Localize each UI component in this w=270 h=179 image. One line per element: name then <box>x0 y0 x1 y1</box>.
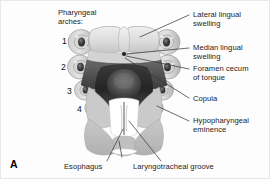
label-lateral-lingual-swelling: Lateral lingual swelling <box>193 10 241 28</box>
pharyngeal-arches-heading: Pharyngeal arches: <box>58 8 96 27</box>
leader-hypopharyngeal-eminence <box>157 106 189 121</box>
figure-panel: Pharyngeal arches: 1 2 3 4 Lateral lingu… <box>0 0 270 179</box>
label-laryngotracheal-groove: Laryngotracheal groove <box>133 162 214 171</box>
label-foramen-cecum-of-tongue: Foramen cecum of tongue <box>193 64 249 82</box>
panel-letter-a: A <box>10 158 18 170</box>
foramen-cecum-dot <box>122 52 126 56</box>
label-copula: Copula <box>193 94 217 103</box>
arch-number-4: 4 <box>77 105 82 114</box>
lateral-lingual-swelling-left <box>89 26 123 53</box>
label-esophagus: Esophagus <box>64 162 102 171</box>
label-median-lingual-swelling: Median lingual swelling <box>193 43 243 61</box>
arch-number-3: 3 <box>67 87 72 96</box>
laryngotracheal-groove <box>109 98 139 138</box>
median-lingual-swelling <box>119 27 130 54</box>
arch-number-1: 1 <box>62 37 67 46</box>
arch-number-2: 2 <box>61 63 66 72</box>
label-hypopharyngeal-eminence: Hypopharyngeal eminence <box>193 116 249 134</box>
